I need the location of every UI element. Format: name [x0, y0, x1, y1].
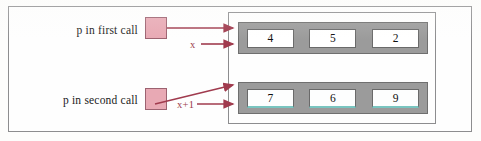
label-p-in-second-call: p in second call: [28, 94, 138, 106]
array-cell: 9: [372, 89, 419, 108]
arrow-label-x: x: [190, 39, 196, 50]
array-cell: 2: [372, 29, 419, 48]
arrow-label-x-plus-1: x+1: [177, 99, 194, 110]
array-row-x: 4 5 2: [238, 22, 428, 54]
array-cell: 4: [247, 29, 294, 48]
array-cell: 7: [247, 89, 294, 108]
array-cell: 6: [309, 89, 356, 108]
array-row-x-plus-1: 7 6 9: [238, 82, 428, 114]
pointer-box-p-second-call: [145, 88, 167, 110]
diagram-canvas: p in first call p in second call 4 5 2 7…: [0, 0, 481, 141]
array-cell: 5: [309, 29, 356, 48]
label-p-in-first-call: p in first call: [38, 24, 138, 36]
pointer-box-p-first-call: [145, 17, 167, 39]
